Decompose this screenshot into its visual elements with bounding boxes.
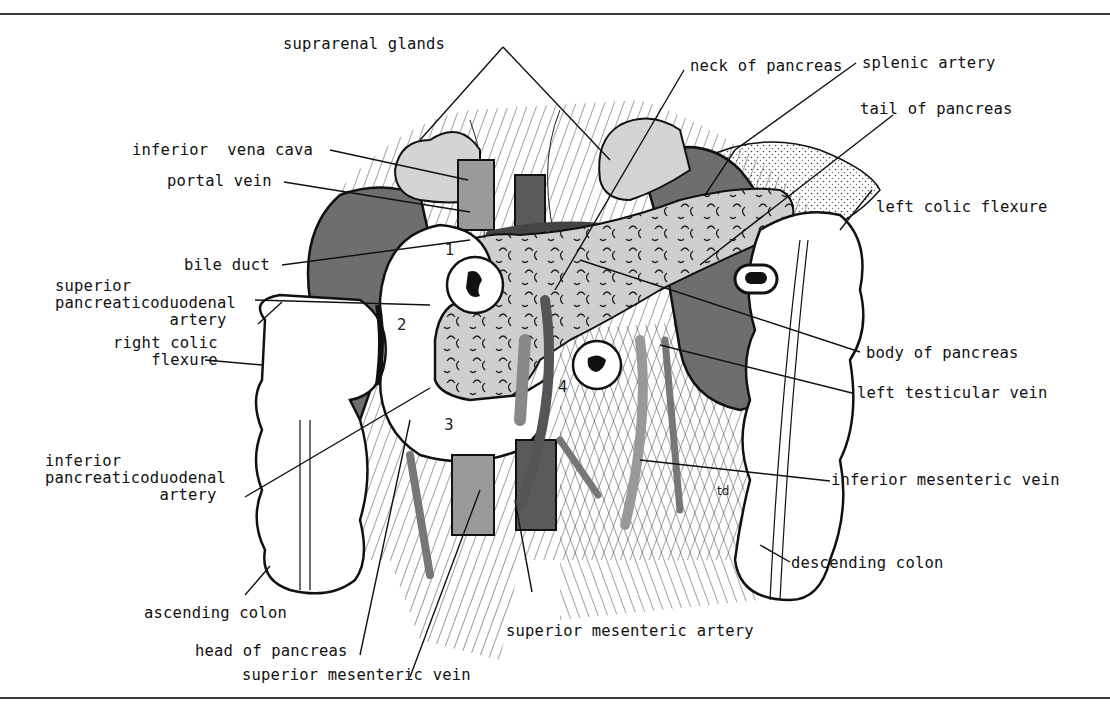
label-left-colic-flexure: left colic flexure <box>876 199 1048 216</box>
label-superior-pancreaticoduodenal-artery: superior pancreaticoduodenal artery <box>55 278 236 329</box>
duodenum-part-3: 3 <box>444 416 454 434</box>
label-ascending-colon: ascending colon <box>144 605 287 622</box>
label-splenic-artery: splenic artery <box>862 55 995 72</box>
label-tail-of-pancreas: tail of pancreas <box>860 101 1013 118</box>
label-superior-mesenteric-artery: superior mesenteric artery <box>506 623 754 640</box>
label-descending-colon: descending colon <box>791 555 944 572</box>
label-body-of-pancreas: body of pancreas <box>866 345 1019 362</box>
duodenum-part-4: 4 <box>558 378 568 396</box>
label-inferior-vena-cava: inferior vena cava <box>132 142 313 159</box>
label-suprarenal-glands: suprarenal glands <box>283 36 445 53</box>
label-head-of-pancreas: head of pancreas <box>195 643 348 660</box>
label-portal-vein: portal vein <box>167 173 272 190</box>
label-right-colic-flexure: right colic flexure <box>113 335 218 369</box>
label-neck-of-pancreas: neck of pancreas <box>690 58 843 75</box>
label-inferior-mesenteric-vein: inferior mesenteric vein <box>831 472 1060 489</box>
label-left-testicular-vein: left testicular vein <box>857 385 1048 402</box>
inferior-vena-cava-upper <box>458 160 494 230</box>
left-colic-lumen <box>745 272 767 284</box>
corner-mark: td <box>717 484 729 498</box>
duodenum-part-2: 2 <box>397 316 407 334</box>
label-inferior-pancreaticoduodenal-artery: inferior pancreaticoduodenal artery <box>45 453 226 504</box>
label-bile-duct: bile duct <box>184 257 270 274</box>
label-superior-mesenteric-vein: superior mesenteric vein <box>242 667 471 684</box>
